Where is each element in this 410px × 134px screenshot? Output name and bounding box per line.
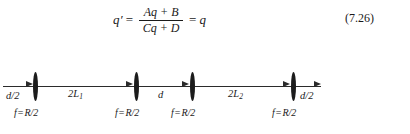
equation-lhs: q′ xyxy=(113,12,123,28)
equation-expression: q′ = Aq + B Cq + D = q xyxy=(113,6,206,35)
optical-axis-line xyxy=(3,86,321,87)
segment-label-subscript: 1 xyxy=(79,92,83,101)
lens-4 xyxy=(291,72,296,101)
lens-3 xyxy=(190,72,195,101)
segment-label-d: d xyxy=(158,89,163,100)
focal-label-lens-2: f=R/2 xyxy=(115,107,139,118)
focal-label-lens-4: f=R/2 xyxy=(272,107,296,118)
equals-sign-second: = xyxy=(186,12,199,28)
segment-label-text: 2L xyxy=(68,88,79,99)
propagation-arrow-icon xyxy=(182,81,189,87)
segment-label-text: d/2 xyxy=(300,90,313,101)
lens-2 xyxy=(134,72,139,101)
segment-label-text: d xyxy=(158,89,163,100)
equals-sign-first: = xyxy=(123,12,136,28)
fraction-numerator: Aq + B xyxy=(141,6,182,19)
propagation-arrow-icon xyxy=(26,81,33,87)
segment-label-2L2: 2L2 xyxy=(228,88,243,101)
propagation-arrow-icon xyxy=(283,81,290,87)
focal-value: R/2 xyxy=(125,107,139,118)
optics-diagram: d/2 2L1 d 2L2 d/2 f=R/2 f=R/2 f=R/2 f=R/… xyxy=(0,60,410,134)
segment-label-d-half-right: d/2 xyxy=(300,90,313,101)
lens-1 xyxy=(33,72,38,101)
focal-value: R/2 xyxy=(282,107,296,118)
focal-value: R/2 xyxy=(181,107,195,118)
document-page: q′ = Aq + B Cq + D = q (7.26) d/2 xyxy=(0,0,410,134)
equation-block: q′ = Aq + B Cq + D = q (7.26) xyxy=(0,0,410,48)
segment-label-text: d/2 xyxy=(6,90,19,101)
segment-label-2L1: 2L1 xyxy=(68,88,83,101)
segment-label-text: 2L xyxy=(228,88,239,99)
focal-value: R/2 xyxy=(24,107,38,118)
propagation-arrow-icon xyxy=(126,81,133,87)
equation-rhs: q xyxy=(199,12,206,28)
fraction: Aq + B Cq + D xyxy=(139,6,183,35)
focal-label-lens-3: f=R/2 xyxy=(171,107,195,118)
equation-number: (7.26) xyxy=(345,11,374,26)
propagation-arrow-icon xyxy=(314,81,321,87)
segment-label-d-half-left: d/2 xyxy=(6,90,19,101)
focal-label-lens-1: f=R/2 xyxy=(14,107,38,118)
segment-label-subscript: 2 xyxy=(239,92,243,101)
fraction-denominator: Cq + D xyxy=(140,22,183,35)
